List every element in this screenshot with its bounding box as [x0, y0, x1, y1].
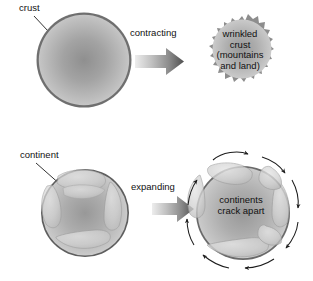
- label-expanding: expanding: [131, 182, 175, 193]
- sphere-body: [39, 15, 129, 105]
- label-continents-crack-apart: continentscrack apart: [205, 195, 277, 216]
- label-continent: continent: [20, 150, 59, 161]
- label-contracting: contracting: [130, 28, 176, 39]
- smooth-crust-sphere: [37, 13, 132, 108]
- continent-sphere: [41, 169, 129, 257]
- label-crust: crust: [19, 3, 40, 14]
- label-wrinkled-crust: wrinkledcrust(mountainsand land): [203, 29, 277, 71]
